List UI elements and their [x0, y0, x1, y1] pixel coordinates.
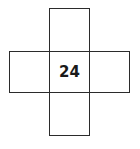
left-box [9, 51, 50, 93]
right-box [89, 51, 130, 93]
center-number: 24 [49, 51, 90, 92]
top-box [49, 8, 90, 52]
bottom-box [49, 92, 90, 136]
